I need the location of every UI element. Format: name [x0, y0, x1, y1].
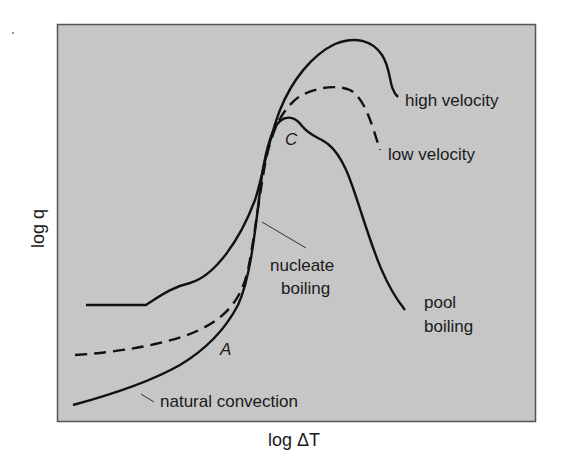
point-a-label: A — [219, 340, 231, 359]
pool-boiling-label-line2: boiling — [424, 317, 473, 336]
plot-area — [58, 25, 536, 422]
point-c-label: C — [285, 130, 298, 149]
pool-boiling-label-line1: pool — [424, 293, 456, 312]
natural-convection-label: natural convection — [160, 392, 298, 411]
x-axis-label: log ΔT — [268, 430, 320, 450]
boiling-curve-diagram: high velocity low velocity pool boiling … — [0, 0, 562, 457]
nucleate-boiling-label-line2: boiling — [281, 279, 330, 298]
nucleate-boiling-label-line1: nucleate — [270, 256, 334, 275]
high-velocity-label: high velocity — [405, 91, 499, 110]
y-axis-label: log q — [28, 209, 48, 248]
low-velocity-label: low velocity — [388, 145, 475, 164]
stray-dot — [12, 32, 14, 34]
